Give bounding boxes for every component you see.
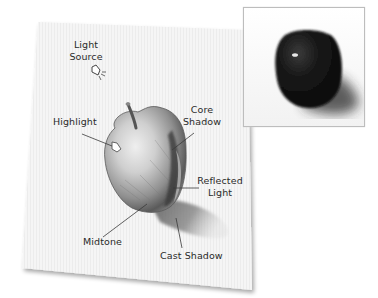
label-light-source: Light Source — [67, 39, 105, 63]
reference-photo — [243, 7, 365, 127]
label-core-shadow: Core Shadow — [182, 104, 222, 128]
label-midtone: Midtone — [83, 236, 122, 248]
label-highlight: Highlight — [53, 116, 97, 128]
label-reflected-light: Reflected Light — [197, 175, 243, 199]
apple-photo-image — [244, 8, 364, 126]
diagram-scene: Light Source Highlight Core Shadow Refle… — [0, 0, 378, 298]
label-cast-shadow: Cast Shadow — [160, 250, 223, 262]
